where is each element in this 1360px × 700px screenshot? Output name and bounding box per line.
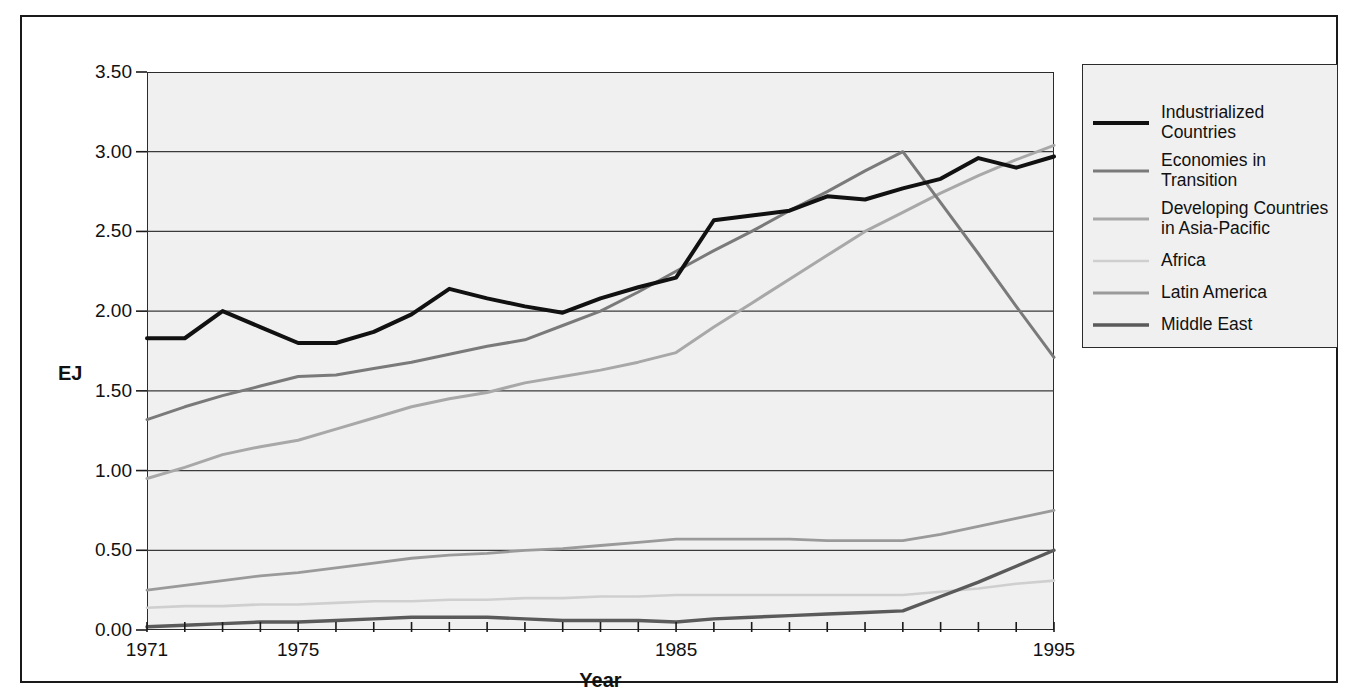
x-tick-label: 1985 [655,639,697,661]
legend-label: Latin America [1161,283,1267,303]
legend-label: Industrialized Countries [1161,103,1337,142]
legend-label: Economies in Transition [1161,151,1337,190]
x-tick-label: 1995 [1033,639,1075,661]
series-line [147,152,1054,420]
legend-label: Africa [1161,251,1206,271]
legend: Industrialized CountriesEconomies in Tra… [1082,64,1338,348]
series-line [147,510,1054,590]
series-line [147,157,1054,344]
plot-area [147,72,1054,630]
legend-item-middle-east[interactable]: Middle East [1093,315,1252,335]
legend-item-latin-america[interactable]: Latin America [1093,283,1267,303]
y-tick-label: 0.50 [95,539,132,561]
y-axis-tick-labels: 0.000.501.001.502.002.503.003.50 [42,72,138,630]
y-axis-tick-marks [136,72,148,630]
y-tick-label: 0.00 [95,619,132,641]
legend-line-swatch [1093,318,1149,332]
y-tick-label: 1.00 [95,460,132,482]
y-tick-label: 3.50 [95,61,132,83]
x-axis-ticks [147,622,1057,636]
y-tick-label: 1.50 [95,380,132,402]
legend-item-developing-countries-in-asia-pacific[interactable]: Developing Countries in Asia-Pacific [1093,199,1337,238]
legend-line-swatch [1093,254,1149,268]
legend-item-economies-in-transition[interactable]: Economies in Transition [1093,151,1337,190]
y-tick-label: 2.50 [95,220,132,242]
legend-item-africa[interactable]: Africa [1093,251,1206,271]
data-lines [147,72,1054,630]
series-line [147,550,1054,627]
x-axis-title: Year [147,669,1054,692]
x-tick-label: 1971 [126,639,168,661]
legend-label: Middle East [1161,315,1252,335]
legend-line-swatch [1093,212,1149,226]
y-tick-label: 3.00 [95,141,132,163]
legend-line-swatch [1093,286,1149,300]
x-tick-label: 1975 [277,639,319,661]
legend-line-swatch [1093,116,1149,130]
legend-line-swatch [1093,164,1149,178]
legend-item-industrialized-countries[interactable]: Industrialized Countries [1093,103,1337,142]
chart-frame: EJ 0.000.501.001.502.002.503.003.50 1971… [20,15,1338,683]
y-tick-label: 2.00 [95,300,132,322]
legend-label: Developing Countries in Asia-Pacific [1161,199,1337,238]
